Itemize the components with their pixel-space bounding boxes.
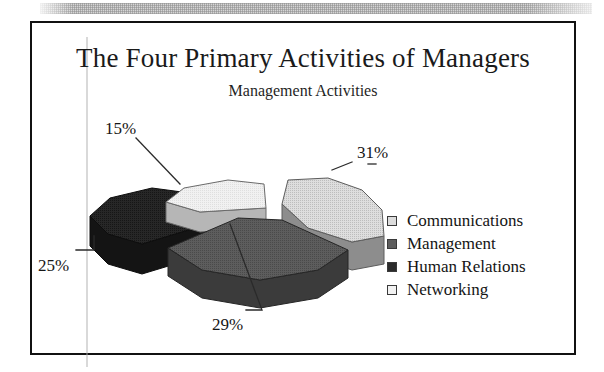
legend-swatch-icon [387, 216, 397, 226]
legend-label: Networking [407, 281, 488, 298]
scan-artifact-fade [40, 3, 592, 14]
chart-title: The Four Primary Activities of Managers [32, 45, 574, 72]
leader-line-31 [332, 162, 352, 170]
legend-item-human-relations[interactable]: Human Relations [387, 256, 567, 277]
chart-legend: Communications Management Human Relation… [387, 210, 567, 302]
slide-frame: The Four Primary Activities of Managers … [30, 21, 576, 355]
data-label-human-relations: 25% [38, 257, 69, 274]
chart-subtitle: Management Activities [32, 83, 574, 99]
leader-line-15 [136, 138, 180, 184]
legend-swatch-icon [387, 239, 397, 249]
legend-label: Human Relations [407, 258, 526, 275]
legend-item-networking[interactable]: Networking [387, 279, 567, 300]
legend-label: Management [407, 235, 496, 252]
legend-swatch-icon [387, 262, 397, 272]
legend-item-management[interactable]: Management [387, 233, 567, 254]
data-label-communications: 31% [357, 144, 388, 161]
data-label-management: 29% [212, 316, 243, 333]
plot-area: 31% 15% 25% 29% Communications Managemen… [32, 98, 578, 353]
legend-swatch-icon [387, 285, 397, 295]
legend-item-communications[interactable]: Communications [387, 210, 567, 231]
legend-label: Communications [407, 212, 523, 229]
data-label-networking: 15% [105, 120, 136, 137]
